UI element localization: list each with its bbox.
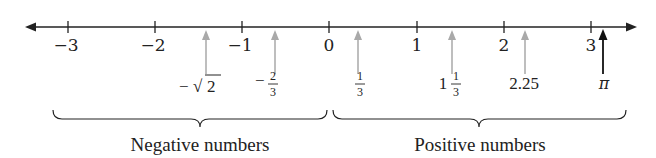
arrow-one-third [354,30,362,74]
brace-negative [53,110,327,127]
up-arrow-icon [354,30,362,40]
svg-text:3: 3 [453,85,459,99]
arrow-two-point-two-five [521,30,529,74]
label-pi: π [598,74,610,93]
tick-label: 3 [586,35,597,55]
point-arrows [202,29,608,74]
left-arrow-icon [25,23,36,32]
arrow-one-and-one-third [448,30,456,74]
up-arrow-icon [599,29,608,40]
number-line-axis [25,23,637,32]
label-one-third: 1 3 [355,69,365,99]
label-one-and-one-third: 1 1 3 [439,69,461,99]
tick-label: −3 [53,35,78,55]
label-negative-two-thirds: − 2 3 [255,69,278,99]
svg-text:2: 2 [207,77,216,96]
svg-text:2: 2 [270,69,276,83]
positive-numbers-label: Positive numbers [414,134,545,155]
svg-text:−: − [255,71,265,90]
svg-text:3: 3 [357,85,363,99]
up-arrow-icon [202,30,210,40]
tick-label: 0 [324,35,335,55]
svg-text:√: √ [193,77,203,96]
svg-text:1: 1 [439,74,448,93]
number-line-diagram: −3 −2 −1 0 1 2 3 [0,0,656,158]
tick-label: −1 [227,35,252,55]
up-arrow-icon [448,30,456,40]
tick-label: −2 [140,35,165,55]
svg-text:1: 1 [453,69,459,83]
up-arrow-icon [271,30,279,40]
brace-positive [333,110,626,127]
svg-text:3: 3 [270,85,276,99]
negative-numbers-label: Negative numbers [131,134,270,155]
tick-label: 1 [412,35,423,55]
label-negative-sqrt2: − √ 2 [179,75,221,96]
point-labels: − √ 2 − 2 3 1 3 1 1 3 2.25 π [179,69,610,99]
arrow-pi [599,29,608,74]
up-arrow-icon [521,30,529,40]
tick-label: 2 [499,35,510,55]
label-two-point-two-five: 2.25 [509,74,539,93]
svg-text:−: − [179,77,189,96]
right-arrow-icon [626,23,637,32]
tick-labels: −3 −2 −1 0 1 2 3 [53,35,596,55]
arrow-negative-sqrt2 [202,30,210,74]
svg-text:1: 1 [357,69,363,83]
arrow-negative-two-thirds [271,30,279,74]
